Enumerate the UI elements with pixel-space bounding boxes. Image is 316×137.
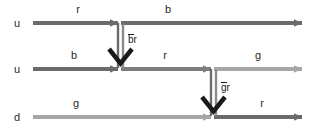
color-label-top-left: r	[76, 3, 80, 15]
gluon-upper-label-group: br	[128, 34, 138, 45]
color-label-top-right: b	[165, 3, 171, 15]
gluon-lower-arrowhead-icon	[202, 97, 225, 112]
color-label-mid-left: b	[71, 49, 77, 61]
color-label-mid-right: g	[255, 49, 261, 61]
gluon-lower-label: gr	[221, 82, 231, 93]
gluon-upper-arrowhead-icon	[109, 49, 132, 64]
feynman-diagram: u u d r b b r g g r br gr	[0, 0, 316, 137]
color-label-bot-left: g	[73, 97, 79, 109]
gluon-upper-label: br	[128, 34, 138, 45]
particle-label-u-top: u	[14, 17, 20, 29]
particle-label-u-middle: u	[14, 63, 20, 75]
color-label-mid-center: r	[163, 49, 167, 61]
gluon-lower-label-group: gr	[221, 82, 231, 93]
diagram-canvas: u u d r b b r g g r br gr	[0, 0, 316, 137]
particle-label-d-bottom: d	[14, 111, 20, 123]
gluon-upper	[109, 23, 132, 68]
color-label-bot-right: r	[260, 97, 264, 109]
